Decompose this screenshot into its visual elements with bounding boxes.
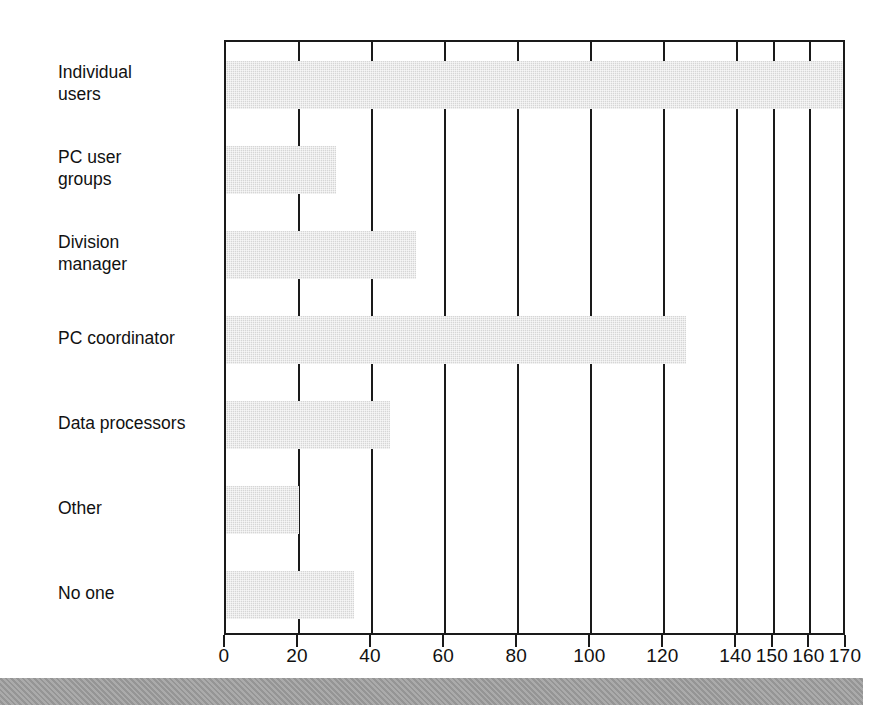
bar (226, 316, 686, 364)
x-tick-label: 80 (486, 645, 546, 667)
category-label: PC user groups (58, 146, 208, 190)
x-tick-label: 40 (340, 645, 400, 667)
x-tick-label: 170 (815, 645, 875, 667)
x-tick-label: 100 (559, 645, 619, 667)
category-label: Data processors (58, 412, 208, 434)
gridline-150 (773, 42, 775, 633)
bar-chart-figure: 020406080100120140150160170 Individual u… (0, 0, 892, 705)
bar (226, 486, 299, 534)
bar (226, 61, 843, 109)
bar (226, 401, 390, 449)
x-tick-label: 20 (267, 645, 327, 667)
bar (226, 146, 336, 194)
category-label: Other (58, 497, 208, 519)
category-label: No one (58, 582, 208, 604)
plot-area (224, 40, 845, 635)
bar (226, 231, 416, 279)
gridline-140 (736, 42, 738, 633)
category-label: Individual users (58, 61, 208, 105)
category-label: PC coordinator (58, 327, 208, 349)
x-tick-label: 60 (413, 645, 473, 667)
category-label: Division manager (58, 231, 208, 275)
x-tick-label: 0 (194, 645, 254, 667)
x-tick-label: 120 (632, 645, 692, 667)
gridline-160 (809, 42, 811, 633)
footer-band (0, 678, 863, 705)
bar (226, 571, 354, 619)
